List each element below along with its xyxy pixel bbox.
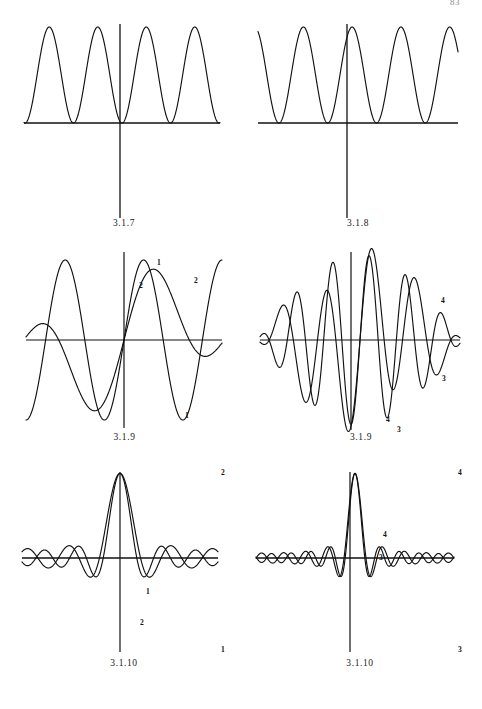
- figure-3-1-7: [24, 18, 224, 228]
- curve-label-4a: 4: [441, 296, 445, 305]
- figure-3-1-10-right: 4 3 4 3: [252, 462, 468, 654]
- plot-3-1-9-left: 1 1 2 2: [22, 250, 227, 430]
- curve-3-1-7-1: [24, 27, 220, 123]
- caption-3-1-7: 3.1.7: [24, 218, 224, 228]
- plot-3-1-9-right: 4 3 4 3: [256, 250, 466, 434]
- curve-label-3b: 3: [458, 645, 462, 654]
- curve-label-1b: 1: [221, 645, 225, 654]
- plot-3-1-10-left: 1 2 2 1: [18, 462, 230, 654]
- curve-label-2b: 2: [221, 468, 225, 477]
- curve-label-1a: 1: [146, 587, 150, 596]
- curve-3-1-10-right-3: [256, 473, 454, 576]
- curve-label-1a: 1: [157, 258, 161, 267]
- figure-3-1-8: [258, 18, 458, 228]
- caption-3-1-8: 3.1.8: [258, 218, 458, 228]
- curve-label-2a: 2: [140, 618, 144, 627]
- curve-label-4b: 4: [386, 415, 390, 424]
- curve-label-3a: 3: [442, 374, 446, 383]
- curve-label-1b: 1: [185, 411, 189, 420]
- curve-3-1-8-1: [258, 27, 458, 123]
- curve-3-1-10-right-4: [256, 473, 454, 576]
- curve-label-2b: 2: [194, 276, 198, 285]
- figure-3-1-10-left: 1 2 2 1: [18, 462, 230, 654]
- curve-label-2a: 2: [139, 281, 143, 290]
- plot-3-1-8: [258, 18, 463, 228]
- caption-3-1-10-right: 3.1.10: [252, 658, 468, 668]
- caption-3-1-9-left: 3.1.9: [22, 432, 227, 442]
- curve-label-3a: 3: [379, 553, 383, 562]
- caption-3-1-10-left: 3.1.10: [18, 658, 230, 668]
- plot-3-1-7: [24, 18, 224, 228]
- page-number: 83: [450, 0, 460, 7]
- figure-3-1-9-right: 4 3 4 3: [256, 250, 466, 430]
- plot-3-1-10-right: 4 3 4 3: [252, 462, 468, 654]
- figure-3-1-9-left: 1 1 2 2: [22, 250, 227, 430]
- curve-label-4a: 4: [383, 530, 387, 539]
- curve-label-4b: 4: [458, 468, 462, 477]
- caption-3-1-9-right: 3.1.9: [256, 432, 466, 442]
